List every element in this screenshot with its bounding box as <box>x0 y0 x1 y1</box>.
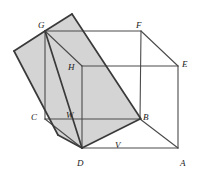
geometry-canvas <box>0 0 200 179</box>
vertex-label-E: E <box>182 60 188 69</box>
vertex-label-A: A <box>180 159 186 168</box>
edge-F-E <box>141 31 178 66</box>
vertex-label-W: W <box>66 111 74 120</box>
vertex-label-H: H <box>68 63 75 72</box>
vertex-label-C: C <box>31 113 37 122</box>
vertex-label-G: G <box>38 21 45 30</box>
geometry-figure: G F E H C W B V D A <box>0 0 200 179</box>
vertex-label-F: F <box>136 21 142 30</box>
edge-B-A <box>140 119 178 148</box>
vertex-label-V: V <box>115 141 121 150</box>
vertex-label-D: D <box>77 159 84 168</box>
vertex-label-B: B <box>143 113 149 122</box>
edge-F-B <box>140 31 141 119</box>
